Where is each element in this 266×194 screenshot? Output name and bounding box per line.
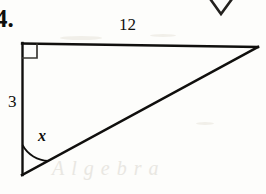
page-bleed-watermark: Algebra xyxy=(52,158,165,178)
side-length-label-left: 3 xyxy=(8,93,17,110)
scan-speckle xyxy=(196,122,214,125)
triangle-hypotenuse xyxy=(22,47,258,175)
angle-label-x: x xyxy=(38,128,46,144)
scan-speckle xyxy=(150,34,176,37)
partial-triangle-artifact-icon xyxy=(198,0,243,14)
triangle-top-side xyxy=(22,44,258,48)
problem-number: 4. xyxy=(0,6,14,31)
side-length-label-top: 12 xyxy=(119,16,136,33)
angle-arc-icon xyxy=(23,145,49,161)
geometry-figure: 4. 12 3 x Algebra xyxy=(0,0,266,194)
scan-speckle xyxy=(60,36,102,40)
right-angle-marker-icon xyxy=(22,44,37,59)
